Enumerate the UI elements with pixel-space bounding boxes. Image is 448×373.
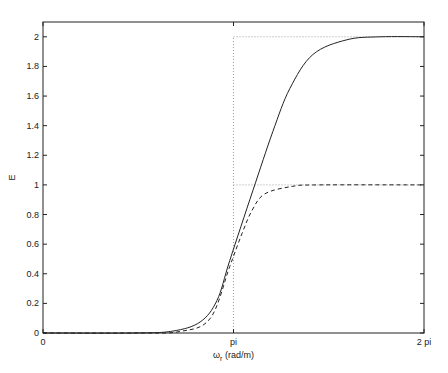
- y-tick-label: 0.6: [26, 239, 39, 249]
- y-tick-label: 1.4: [26, 121, 39, 131]
- y-tick-label: 0: [34, 328, 39, 338]
- y-tick-label: 0.4: [26, 269, 39, 279]
- x-tick-label: 0: [40, 337, 45, 347]
- y-tick-label: 1: [34, 180, 39, 190]
- x-axis-ticks: 0pi2 pi: [40, 22, 431, 347]
- chart-canvas: 00.20.40.60.811.21.41.61.82 0pi2 pi E ωr…: [0, 0, 448, 373]
- x-axis-label: ωr (rad/m): [213, 350, 254, 362]
- y-tick-label: 0.8: [26, 210, 39, 220]
- y-tick-label: 1.6: [26, 91, 39, 101]
- series-dashed-line: [43, 185, 424, 333]
- y-axis-label: E: [7, 174, 17, 180]
- y-tick-label: 2: [34, 32, 39, 42]
- y-tick-label: 1.8: [26, 61, 39, 71]
- y-tick-label: 0.2: [26, 298, 39, 308]
- y-tick-label: 1.2: [26, 150, 39, 160]
- x-tick-label: pi: [230, 337, 237, 347]
- x-tick-label: 2 pi: [417, 337, 432, 347]
